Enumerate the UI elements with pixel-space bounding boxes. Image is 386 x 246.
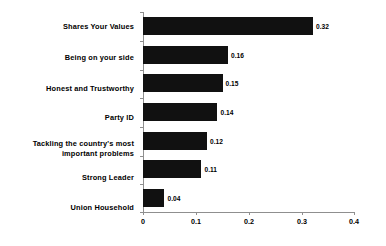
x-axis-tick-label: 0: [141, 217, 145, 226]
bar-value-tackling-important-problems: 0.12: [210, 138, 223, 145]
category-label-strong-leader: Strong Leader: [0, 173, 134, 183]
y-axis-tick: [140, 156, 143, 157]
category-label-shares-your-values: Shares Your Values: [0, 22, 134, 32]
bar-union-household: [143, 189, 164, 207]
y-axis-tick: [140, 98, 143, 99]
bar-strong-leader: [143, 160, 201, 178]
y-axis-tick: [140, 41, 143, 42]
y-axis-tick: [140, 127, 143, 128]
category-label-tackling-important-problems: Tackling the country's most important pr…: [0, 139, 134, 158]
y-axis-tick: [140, 70, 143, 71]
x-axis-tick-label: 0.1: [191, 217, 201, 226]
bar-being-on-your-side: [143, 46, 228, 64]
x-axis-tick-label: 0.2: [244, 217, 254, 226]
bar-party-id: [143, 103, 217, 121]
bar-value-shares-your-values: 0.32: [316, 23, 329, 30]
y-axis-tick: [140, 184, 143, 185]
bar-value-union-household: 0.04: [168, 195, 181, 202]
bar-value-strong-leader: 0.11: [205, 166, 217, 173]
bar-shares-your-values: [143, 17, 313, 35]
x-axis-tick-label: 0.4: [349, 217, 359, 226]
x-axis-tick: [143, 212, 144, 215]
x-axis-tick-label: 0.3: [297, 217, 307, 226]
category-label-being-on-your-side: Being on your side: [0, 53, 134, 63]
category-label-party-id: Party ID: [0, 113, 134, 123]
plot-area: 0.32 0.16 0.15 0.14 0.12 0.11 0.04 0 0.1…: [143, 12, 355, 212]
bar-value-party-id: 0.14: [221, 109, 234, 116]
x-axis-tick: [302, 212, 303, 215]
bar-tackling-important-problems: [143, 132, 207, 150]
x-axis-tick: [196, 212, 197, 215]
y-axis-tick: [140, 12, 143, 13]
category-axis-labels: Shares Your Values Being on your side Ho…: [0, 0, 139, 200]
bar-chart: Shares Your Values Being on your side Ho…: [0, 0, 386, 246]
x-axis-tick: [249, 212, 250, 215]
bar-honest-and-trustworthy: [143, 74, 223, 92]
category-label-honest-and-trustworthy: Honest and Trustworthy: [0, 84, 134, 94]
bar-value-honest-and-trustworthy: 0.15: [226, 80, 239, 87]
bar-value-being-on-your-side: 0.16: [231, 52, 244, 59]
x-axis-tick: [354, 212, 355, 215]
category-label-union-household: Union Household: [0, 203, 134, 213]
